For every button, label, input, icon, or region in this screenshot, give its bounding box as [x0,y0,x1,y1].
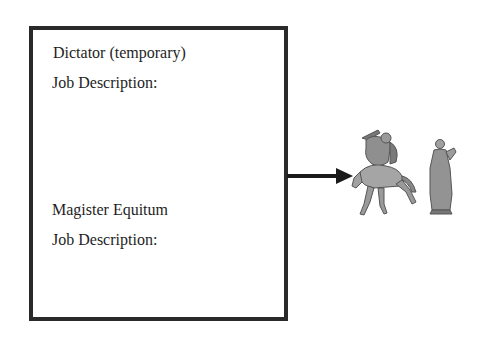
role-title-dictator: Dictator (temporary) [53,44,186,62]
arrow-shaft [287,174,339,178]
job-description-label-magister-equitum: Job Description: [52,231,157,249]
role-title-magister-equitum: Magister Equitum [52,201,168,219]
horseman-icon [350,128,422,216]
roles-box [29,26,288,321]
job-description-label-dictator: Job Description: [52,74,157,92]
toga-statue-icon [424,138,460,216]
